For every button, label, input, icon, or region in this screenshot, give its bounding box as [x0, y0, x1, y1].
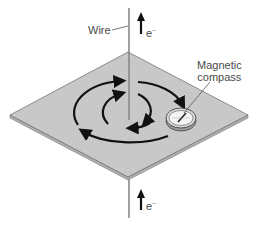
- magnetic-field-diagram: Wire e− e− Magnetic compass: [0, 0, 254, 227]
- electron-label-bottom: e−: [146, 197, 156, 212]
- wire-label: Wire: [88, 24, 111, 36]
- compass-label: Magnetic compass: [197, 59, 242, 83]
- compass-label-line1: Magnetic: [197, 59, 242, 71]
- electron-label-top: e−: [146, 24, 156, 39]
- electron-arrow-top: [137, 12, 145, 34]
- compass-label-line2: compass: [197, 71, 242, 83]
- electron-arrow-bottom: [137, 189, 145, 210]
- magnetic-compass: [166, 108, 196, 131]
- diagram-graphic: [0, 0, 254, 227]
- wire-leader-line: [112, 26, 128, 30]
